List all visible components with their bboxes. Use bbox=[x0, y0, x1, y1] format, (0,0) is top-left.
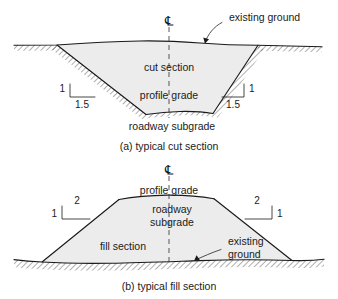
slope-vertical-left-b: 1 bbox=[51, 208, 57, 219]
slope-marker-left-b bbox=[62, 206, 90, 219]
centerline-symbol-b: ℄ bbox=[164, 162, 174, 177]
label-existing-ground-b-line1: existing bbox=[228, 235, 264, 247]
centerline-symbol-a: ℄ bbox=[164, 13, 174, 28]
panel-b-fill-section: ℄ profile grade roadway subgrade fill se… bbox=[14, 162, 324, 292]
roadway-sections-diagram: ℄ existing ground cut section profile gr… bbox=[0, 0, 338, 299]
label-roadway-subgrade-b-line2: subgrade bbox=[150, 216, 194, 228]
label-fill-section: fill section bbox=[100, 240, 146, 252]
slope-marker-left-a bbox=[70, 84, 95, 97]
slope-vertical-right-a: 1 bbox=[249, 83, 255, 94]
slope-horizontal-left-a: 1.5 bbox=[75, 99, 89, 110]
figure-root: ℄ existing ground cut section profile gr… bbox=[0, 0, 338, 299]
label-profile-grade-b: profile grade bbox=[140, 184, 199, 196]
slope-vertical-right-b: 1 bbox=[277, 208, 283, 219]
label-cut-section: cut section bbox=[144, 61, 194, 73]
label-roadway-subgrade-a: roadway subgrade bbox=[129, 120, 216, 132]
slope-vertical-left-a: 1 bbox=[59, 83, 65, 94]
label-roadway-subgrade-b-line1: roadway bbox=[152, 203, 192, 215]
ground-hatch-left-a bbox=[14, 45, 57, 51]
caption-panel-b: (b) typical fill section bbox=[122, 280, 217, 292]
slope-horizontal-right-b: 2 bbox=[254, 195, 260, 206]
panel-a-cut-section: ℄ existing ground cut section profile gr… bbox=[14, 11, 322, 152]
caption-panel-a: (a) typical cut section bbox=[120, 140, 219, 152]
slope-horizontal-right-a: 1.5 bbox=[226, 99, 240, 110]
label-profile-grade-a: profile grade bbox=[140, 89, 199, 101]
label-existing-ground-b-line2: ground bbox=[228, 248, 261, 260]
label-existing-ground-a: existing ground bbox=[229, 11, 300, 23]
existing-ground-arrow-a bbox=[203, 38, 209, 44]
slope-marker-right-b bbox=[245, 206, 272, 219]
slope-horizontal-left-b: 2 bbox=[74, 195, 80, 206]
